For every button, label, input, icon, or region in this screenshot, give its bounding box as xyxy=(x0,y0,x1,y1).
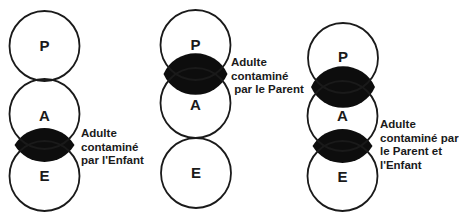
caption-line: le Parent et xyxy=(380,145,459,159)
caption-line: Adulte xyxy=(231,56,304,70)
ego-states-diagram: P A E P A E P A E xyxy=(0,0,459,221)
contamination-lens-a-e xyxy=(15,128,75,162)
caption-line: contaminé xyxy=(231,70,304,84)
contamination-lens-p-a xyxy=(311,66,375,108)
caption-left: Adultecontaminépar l'Enfant xyxy=(81,127,144,168)
caption-line: par l'Enfant xyxy=(81,154,144,168)
label-e: E xyxy=(337,168,347,185)
contamination-lens-a-e xyxy=(313,129,373,163)
label-a: A xyxy=(337,107,348,124)
caption-line: contaminé xyxy=(81,141,144,155)
contamination-lens-p-a xyxy=(164,53,228,95)
caption-middle: Adultecontaminé par le Parent xyxy=(231,56,304,97)
caption-line: par le Parent xyxy=(231,83,304,97)
caption-right: Adultecontaminé parle Parent etl'Enfant xyxy=(380,118,459,172)
caption-line: contaminé par xyxy=(380,132,459,146)
diagram-left: P A E xyxy=(10,11,80,211)
label-p: P xyxy=(190,36,200,53)
label-e: E xyxy=(39,167,49,184)
caption-line: Adulte xyxy=(81,127,144,141)
label-p: P xyxy=(338,48,348,65)
label-a: A xyxy=(39,107,50,124)
diagram-right: P A E xyxy=(308,23,379,211)
label-e: E xyxy=(191,164,201,181)
caption-line: l'Enfant xyxy=(380,159,459,173)
caption-line: Adulte xyxy=(380,118,459,132)
label-a: A xyxy=(190,96,201,113)
label-p: P xyxy=(39,37,49,54)
diagram-middle: P A E xyxy=(161,10,232,208)
